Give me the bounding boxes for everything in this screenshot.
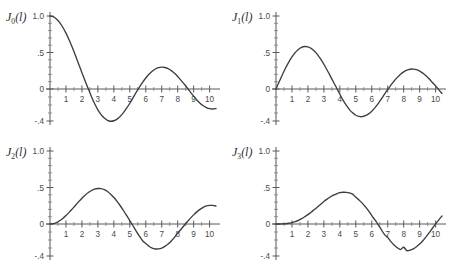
- x-tick-label: 10: [205, 95, 215, 104]
- x-tick-label: 2: [306, 95, 311, 104]
- y-tick-label: 1.0: [33, 12, 45, 21]
- x-tick-label: 1: [290, 95, 295, 104]
- y-tick-label: -.4: [34, 117, 44, 126]
- bessel-function-figure: 1.0.50-.412345678910J0(l)1.0.50-.4123456…: [0, 0, 452, 270]
- function-label: J2(l): [6, 145, 26, 161]
- y-tick-label: 1.0: [259, 147, 271, 156]
- x-tick-label: 7: [159, 95, 164, 104]
- y-tick-label: 1.0: [33, 147, 45, 156]
- function-label: J0(l): [6, 10, 26, 26]
- x-tick-label: 6: [369, 230, 374, 239]
- x-tick-label: 5: [354, 230, 359, 239]
- x-tick-label: 8: [401, 230, 406, 239]
- x-tick-label: 5: [354, 95, 359, 104]
- x-tick-label: 6: [369, 95, 374, 104]
- y-tick-label: 1.0: [259, 12, 271, 21]
- x-tick-label: 2: [80, 95, 85, 104]
- y-tick-label: 0: [265, 220, 270, 229]
- y-tick-label: -.4: [34, 252, 44, 261]
- y-tick-label: -.4: [260, 252, 270, 261]
- x-tick-label: 4: [338, 95, 343, 104]
- x-tick-label: 3: [96, 95, 101, 104]
- x-tick-label: 10: [431, 95, 441, 104]
- x-tick-label: 4: [338, 230, 343, 239]
- x-tick-label: 3: [322, 230, 327, 239]
- function-label-argument: (l): [15, 10, 26, 24]
- function-label-argument: (l): [15, 145, 26, 159]
- x-tick-label: 1: [290, 230, 295, 239]
- x-tick-label: 9: [417, 230, 422, 239]
- x-tick-label: 5: [128, 230, 133, 239]
- function-label-argument: (l): [241, 10, 252, 24]
- bessel-curve: [50, 188, 216, 249]
- x-tick-label: 2: [80, 230, 85, 239]
- x-tick-label: 8: [401, 95, 406, 104]
- x-tick-label: 10: [431, 230, 441, 239]
- y-tick-label: 0: [39, 85, 44, 94]
- y-tick-label: -.4: [260, 117, 270, 126]
- function-label-argument: (l): [241, 145, 252, 159]
- x-tick-label: 6: [143, 95, 148, 104]
- x-tick-label: 9: [417, 95, 422, 104]
- x-tick-label: 10: [205, 230, 215, 239]
- function-label: J3(l): [232, 145, 252, 161]
- y-tick-label: .5: [263, 49, 270, 58]
- y-tick-label: .5: [37, 184, 44, 193]
- x-tick-label: 4: [112, 230, 117, 239]
- bessel-curve: [276, 192, 442, 251]
- function-label: J1(l): [232, 10, 252, 26]
- bessel-curve: [50, 16, 216, 121]
- x-tick-label: 6: [143, 230, 148, 239]
- x-tick-label: 3: [322, 95, 327, 104]
- plot-panel-j2: 1.0.50-.412345678910J2(l): [0, 135, 226, 270]
- plot-panel-j3: 1.0.50-.412345678910J3(l): [226, 135, 452, 270]
- x-tick-label: 7: [385, 95, 390, 104]
- y-tick-label: 0: [39, 220, 44, 229]
- x-tick-label: 1: [64, 230, 69, 239]
- x-tick-label: 3: [96, 230, 101, 239]
- bessel-curve: [276, 46, 442, 116]
- y-tick-label: 0: [265, 85, 270, 94]
- x-tick-label: 2: [306, 230, 311, 239]
- x-tick-label: 4: [112, 95, 117, 104]
- x-tick-label: 7: [159, 230, 164, 239]
- x-tick-label: 9: [191, 230, 196, 239]
- plot-panel-j0: 1.0.50-.412345678910J0(l): [0, 0, 226, 135]
- y-tick-label: .5: [37, 49, 44, 58]
- y-tick-label: .5: [263, 184, 270, 193]
- plot-panel-j1: 1.0.50-.412345678910J1(l): [226, 0, 452, 135]
- x-tick-label: 1: [64, 95, 69, 104]
- x-tick-label: 8: [175, 95, 180, 104]
